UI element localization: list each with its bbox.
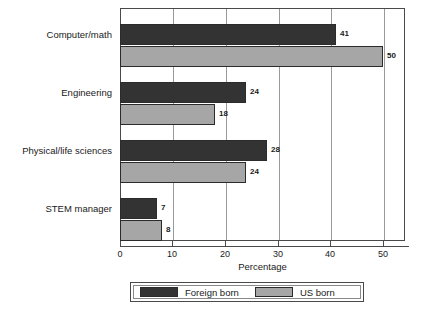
bar-value-foreign-physical-life-sciences: 28 bbox=[271, 145, 280, 155]
bar-value-foreign-computer-math: 41 bbox=[340, 29, 349, 39]
legend-swatch-foreign-born-icon bbox=[140, 287, 178, 297]
legend-entry-foreign-born: Foreign born bbox=[140, 286, 239, 298]
legend-swatch-us-born-icon bbox=[255, 287, 293, 297]
x-tick-10 bbox=[172, 241, 173, 246]
category-label-2: Physical/life sciences bbox=[0, 145, 112, 156]
bar-value-usborn-physical-life-sciences: 24 bbox=[250, 167, 259, 177]
bar-foreign-stem-manager bbox=[120, 198, 157, 219]
legend-inner: Foreign born US born bbox=[133, 285, 361, 299]
x-tick-30 bbox=[278, 241, 279, 246]
bars-layer: 41 50 24 18 28 24 7 8 bbox=[120, 8, 405, 241]
bar-group-physical-life-sciences: 28 24 bbox=[120, 134, 405, 192]
x-tick-20 bbox=[225, 241, 226, 246]
bar-group-stem-manager: 7 8 bbox=[120, 192, 405, 250]
x-tick-0 bbox=[120, 241, 121, 246]
x-tick-label-40: 40 bbox=[318, 249, 342, 260]
bar-usborn-engineering bbox=[120, 104, 215, 125]
x-axis-line bbox=[120, 246, 409, 247]
x-tick-40 bbox=[330, 241, 331, 246]
bar-group-computer-math: 41 50 bbox=[120, 18, 405, 76]
category-label-3: STEM manager bbox=[0, 203, 112, 214]
bar-foreign-physical-life-sciences bbox=[120, 140, 267, 161]
bar-value-usborn-engineering: 18 bbox=[219, 109, 228, 119]
category-axis-labels: Computer/math Engineering Physical/life … bbox=[0, 8, 116, 241]
bar-value-foreign-stem-manager: 7 bbox=[161, 203, 165, 213]
bar-usborn-stem-manager bbox=[120, 220, 162, 241]
bar-foreign-engineering bbox=[120, 82, 246, 103]
bar-value-foreign-engineering: 24 bbox=[250, 87, 259, 97]
x-tick-label-20: 20 bbox=[213, 249, 237, 260]
x-axis-title: Percentage bbox=[120, 261, 405, 272]
category-label-1: Engineering bbox=[0, 87, 112, 98]
x-tick-label-30: 30 bbox=[266, 249, 290, 260]
bar-usborn-physical-life-sciences bbox=[120, 162, 246, 183]
x-tick-50 bbox=[383, 241, 384, 246]
legend: Foreign born US born bbox=[130, 282, 364, 302]
legend-entry-us-born: US born bbox=[255, 286, 335, 298]
legend-label-us-born: US born bbox=[300, 287, 335, 298]
bar-value-usborn-computer-math: 50 bbox=[387, 51, 396, 61]
legend-label-foreign-born: Foreign born bbox=[185, 287, 239, 298]
bar-value-usborn-stem-manager: 8 bbox=[166, 225, 170, 235]
x-tick-label-0: 0 bbox=[108, 249, 132, 260]
bar-group-engineering: 24 18 bbox=[120, 76, 405, 134]
bar-usborn-computer-math bbox=[120, 46, 383, 67]
x-tick-label-10: 10 bbox=[160, 249, 184, 260]
category-label-0: Computer/math bbox=[0, 29, 112, 40]
bar-chart: Computer/math Engineering Physical/life … bbox=[0, 0, 425, 312]
x-tick-label-50: 50 bbox=[371, 249, 395, 260]
bar-foreign-computer-math bbox=[120, 24, 336, 45]
